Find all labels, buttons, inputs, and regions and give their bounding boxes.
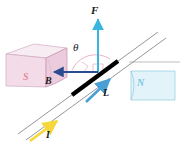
- south-pole-label: S: [23, 72, 29, 82]
- angle-arc: [72, 55, 110, 70]
- current-arrow: [30, 121, 57, 141]
- north-pole-label: N: [137, 78, 144, 88]
- physics-diagram-magnetic-force: F θ B L I S N: [0, 0, 185, 152]
- current-label: I: [46, 130, 50, 140]
- angle-label: θ: [73, 42, 78, 53]
- length-label: L: [103, 88, 109, 98]
- south-pole-magnet: [6, 44, 67, 87]
- force-label: F: [91, 5, 98, 16]
- angle-arc-inner: [82, 62, 88, 72]
- field-label: B: [45, 76, 52, 86]
